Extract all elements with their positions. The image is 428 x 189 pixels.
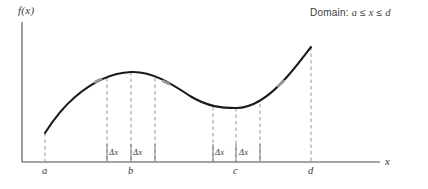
x-tick-label-c: c xyxy=(233,165,238,176)
delta-x-label-3: Δx xyxy=(215,147,224,157)
domain-annotation: Domain: a ≤ x ≤ d xyxy=(310,7,391,18)
domain-relation-2: ≤ xyxy=(377,7,383,18)
domain-variable: x xyxy=(369,7,374,18)
x-tick-label-d: d xyxy=(308,165,313,176)
dashed-guide-lines xyxy=(45,47,311,162)
domain-lower-bound: a xyxy=(352,7,357,18)
y-axis-label: f(x) xyxy=(18,4,34,16)
delta-x-bracket-ticks xyxy=(107,144,260,162)
domain-relation-1: ≤ xyxy=(360,7,366,18)
curve-tick-far-right xyxy=(278,81,284,86)
graph-canvas xyxy=(0,0,428,189)
delta-x-label-2: Δx xyxy=(133,147,142,157)
x-axis-label: x xyxy=(385,155,390,167)
x-tick-label-b: b xyxy=(128,165,133,176)
delta-x-label-1: Δx xyxy=(109,147,118,157)
x-tick-label-a: a xyxy=(42,165,47,176)
curve-tick-left xyxy=(95,79,101,82)
function-graph-figure: f(x) x Domain: a ≤ x ≤ d a b c d Δx Δx Δ… xyxy=(0,0,428,189)
domain-prefix: Domain: xyxy=(310,7,349,18)
delta-x-label-4: Δx xyxy=(239,147,248,157)
domain-upper-bound: d xyxy=(385,7,390,18)
function-curve xyxy=(45,47,311,133)
curve-secant-ticks xyxy=(95,79,284,86)
